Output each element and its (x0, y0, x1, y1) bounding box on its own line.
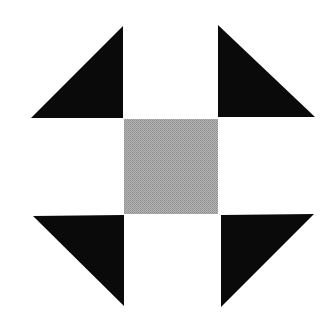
center-square (124, 119, 218, 214)
quilt-block-svg (0, 0, 332, 328)
quilt-block-diagram (0, 0, 332, 328)
